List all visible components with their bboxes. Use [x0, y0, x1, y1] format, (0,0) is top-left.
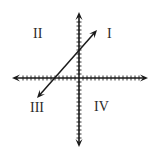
diagonal-line — [40, 33, 95, 95]
coordinate-plane-graphic — [0, 0, 155, 152]
quadrant-1-label: I — [107, 27, 112, 41]
quadrant-3-label: III — [30, 101, 44, 115]
quadrant-2-label: II — [33, 27, 42, 41]
coordinate-plane: I II III IV — [0, 0, 155, 152]
quadrant-4-label: IV — [94, 100, 109, 114]
